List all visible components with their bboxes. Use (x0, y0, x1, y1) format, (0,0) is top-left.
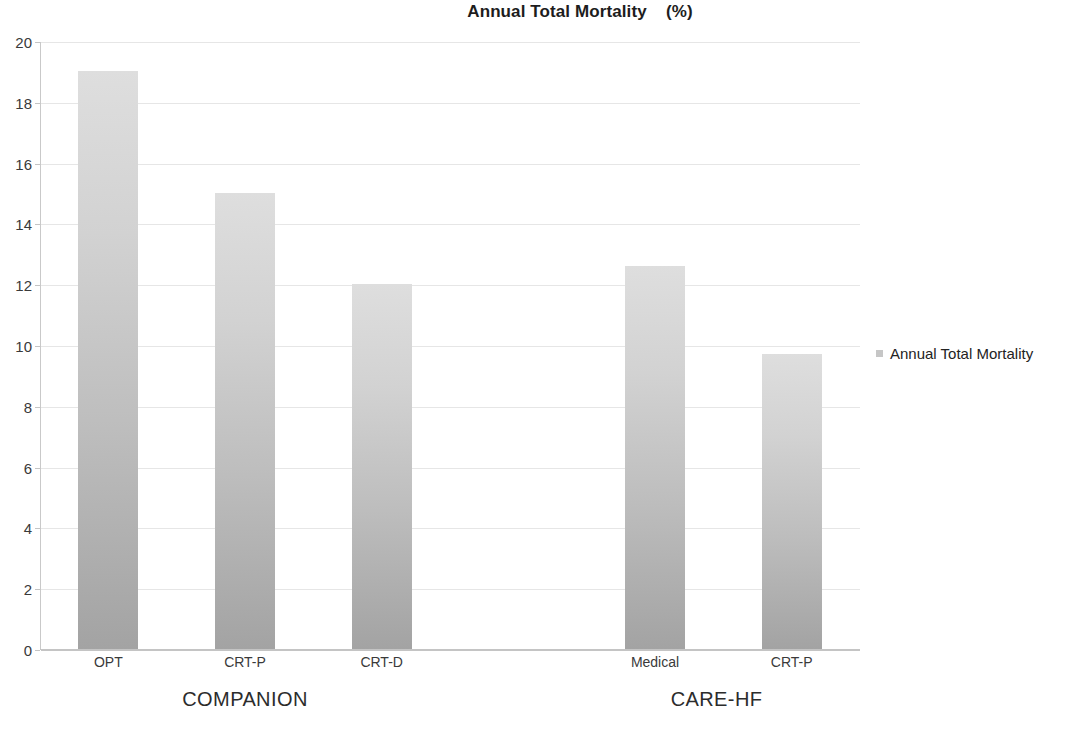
bar (352, 284, 412, 649)
y-axis-tick-value: 12 (2, 278, 32, 293)
gridline (41, 42, 860, 43)
y-axis-tick-label: 18 (0, 96, 32, 110)
y-axis-tickmark (35, 650, 40, 651)
y-axis-tick-label: 10 (0, 339, 32, 353)
y-axis-tickmark (35, 164, 40, 165)
bar-category-label: CRT-P (732, 654, 852, 670)
y-axis-tick-value: 2 (2, 582, 32, 597)
bar-category-label: OPT (48, 654, 168, 670)
y-axis-tick-label: 6 (0, 461, 32, 475)
gridline (41, 528, 860, 529)
y-axis-tickmark (35, 42, 40, 43)
gridline (41, 103, 860, 104)
y-axis-tickmark (35, 528, 40, 529)
y-axis-tick-value: 18 (2, 96, 32, 111)
y-axis-tick-value: 8 (2, 400, 32, 415)
group-label: COMPANION (115, 688, 375, 711)
y-axis-tick-value: 6 (2, 461, 32, 476)
y-axis-tickmark (35, 285, 40, 286)
bar (215, 193, 275, 649)
legend-label: Annual Total Mortality (890, 345, 1033, 362)
bar (625, 266, 685, 649)
group-label: CARE-HF (587, 688, 847, 711)
y-axis-tick-value: 16 (2, 157, 32, 172)
y-axis-tick-label: 0 (0, 643, 32, 657)
gridline (41, 164, 860, 165)
gridline (41, 407, 860, 408)
bar (78, 71, 138, 649)
bar (762, 354, 822, 649)
y-axis-tick-label: 20 (0, 35, 32, 49)
y-axis-tick-label: 8 (0, 400, 32, 414)
y-axis-tick-label: 2 (0, 582, 32, 596)
bar-category-label: Medical (595, 654, 715, 670)
gridline (41, 224, 860, 225)
bar-category-label: CRT-D (322, 654, 442, 670)
y-axis-tickmark (35, 224, 40, 225)
gridline (41, 650, 860, 651)
y-axis-tick-label: 12 (0, 278, 32, 292)
y-axis-tickmark (35, 103, 40, 104)
y-axis-tickmark (35, 407, 40, 408)
legend-swatch-icon (876, 350, 883, 357)
y-axis-tick-label: 16 (0, 157, 32, 171)
x-axis-line (40, 649, 860, 650)
y-axis-tick-value: 20 (2, 35, 32, 50)
y-axis-tickmark (35, 346, 40, 347)
y-axis-tickmark (35, 589, 40, 590)
y-axis-tick-label: 14 (0, 217, 32, 231)
y-axis-tick-value: 0 (2, 643, 32, 658)
chart-title: Annual Total Mortality (%) (300, 2, 860, 22)
bar-category-label: CRT-P (185, 654, 305, 670)
gridline (41, 346, 860, 347)
y-axis-tick-value: 14 (2, 217, 32, 232)
y-axis-tickmark (35, 468, 40, 469)
y-axis-tick-value: 10 (2, 339, 32, 354)
plot-area: 02468101214161820 OPTCRT-PCRT-DMedicalCR… (40, 42, 860, 650)
gridline (41, 589, 860, 590)
gridline (41, 285, 860, 286)
bar-chart: Annual Total Mortality (%) 0246810121416… (0, 0, 1084, 729)
legend: Annual Total Mortality (876, 345, 1033, 362)
gridline (41, 468, 860, 469)
y-axis-tick-value: 4 (2, 521, 32, 536)
y-axis-tick-label: 4 (0, 521, 32, 535)
